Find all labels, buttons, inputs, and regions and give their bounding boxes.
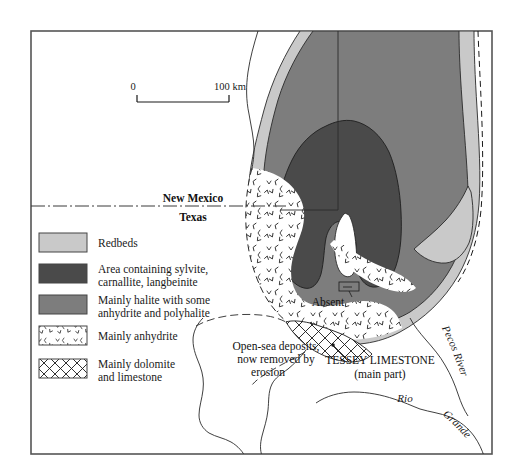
scale-start-label: 0 xyxy=(130,81,135,92)
label-open-sea-line1: Open-sea deposits, xyxy=(233,340,320,353)
legend-label-anhydrite: Mainly anhydrite xyxy=(98,330,178,343)
legend-label-halite-line2: anhydrite and polyhalite xyxy=(98,307,210,320)
tessey-leader-dot xyxy=(331,343,335,347)
figure-root: 0 100 km New Mexico Texas Absent Open-se… xyxy=(0,0,522,473)
label-absent: Absent xyxy=(312,296,345,308)
legend-label-halite: Mainly halite with some xyxy=(98,294,210,307)
legend-label-dolomite: Mainly dolomite xyxy=(98,358,175,371)
state-label-new-mexico: New Mexico xyxy=(163,192,224,204)
legend-label-redbeds: Redbeds xyxy=(98,237,138,249)
legend-swatch-dolomite xyxy=(39,359,87,378)
label-open-sea-line2: now removed by xyxy=(237,353,315,366)
state-label-texas: Texas xyxy=(179,211,207,223)
scale-end-label: 100 km xyxy=(214,81,246,92)
legend-label-sylvite-zone-line2: carnallite, langbeinite xyxy=(98,276,198,289)
legend-label-dolomite-line2: and limestone xyxy=(98,371,162,383)
legend-swatch-redbeds xyxy=(39,233,87,252)
legend-swatch-anhydrite xyxy=(39,326,87,345)
legend-swatch-halite xyxy=(39,295,87,314)
label-tessey-line2: (main part) xyxy=(354,368,406,381)
geological-map: 0 100 km New Mexico Texas Absent Open-se… xyxy=(0,0,522,473)
label-open-sea-line3: erosion xyxy=(251,366,285,378)
label-tessey-line1: TESSEY LIMESTONE xyxy=(325,354,435,366)
legend-label-sylvite-zone: Area containing sylvite, xyxy=(98,263,208,276)
label-rio: Rio xyxy=(396,392,413,404)
legend-swatch-sylvite-zone xyxy=(39,264,87,283)
